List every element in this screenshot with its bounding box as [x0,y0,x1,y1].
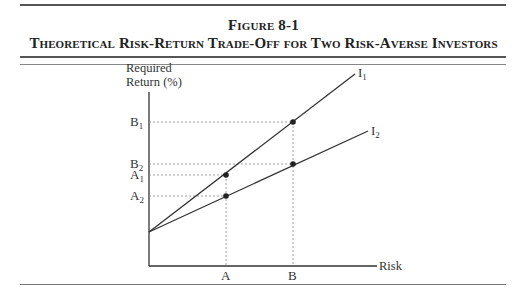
label-i2: I2 [371,123,380,140]
y-axis-label-line1: Required [126,61,173,75]
data-points [223,119,296,199]
x-tick-a: A [221,268,231,283]
line-i2 [149,131,368,232]
point-a2 [223,193,229,199]
x-axis-label: Risk [379,259,403,273]
y-axis-label-line2: Return (%) [126,75,182,89]
point-b1 [290,119,296,125]
x-tick-b: B [288,268,297,283]
risk-return-chart: Required Return (%) Risk I1 I2 B1 B2 A1 … [0,0,527,307]
y-tick-b1: B1 [130,114,143,131]
guide-lines [149,122,293,266]
line-i1 [149,74,355,232]
point-b2 [290,161,296,167]
y-tick-a2: A2 [130,188,144,205]
point-a1 [223,172,229,178]
label-i1: I1 [358,65,367,82]
